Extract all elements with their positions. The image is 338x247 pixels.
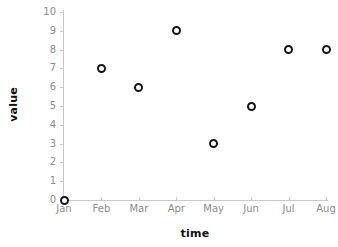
x-tick-mark: [326, 197, 327, 201]
x-tick-mark: [251, 197, 252, 201]
y-tick-label: 6: [36, 82, 56, 92]
x-tick-label: Jan: [44, 203, 84, 215]
data-point: [97, 64, 106, 73]
data-point: [60, 196, 69, 205]
x-tick-label: Aug: [306, 203, 338, 215]
y-tick-label: 1: [36, 176, 56, 186]
y-tick-label: 2: [36, 157, 56, 167]
y-tick-mark: [60, 50, 64, 51]
x-tick-label: Feb: [81, 203, 121, 215]
y-tick-mark: [60, 106, 64, 107]
y-tick-label: 8: [36, 45, 56, 55]
y-axis-title: value: [7, 83, 20, 127]
y-tick-mark: [60, 31, 64, 32]
scatter-chart: value time 012345678910 JanFebMarAprMayJ…: [0, 0, 338, 247]
x-tick-mark: [101, 197, 102, 201]
y-tick-mark: [60, 12, 64, 13]
x-tick-label: Apr: [156, 203, 196, 215]
x-tick-label: Jul: [269, 203, 309, 215]
x-tick-label: Jun: [231, 203, 271, 215]
y-tick-mark: [60, 181, 64, 182]
y-tick-mark: [60, 125, 64, 126]
data-point: [247, 102, 256, 111]
y-tick-label: 5: [36, 101, 56, 111]
x-tick-mark: [214, 197, 215, 201]
x-tick-label: May: [194, 203, 234, 215]
y-tick-mark: [60, 144, 64, 145]
y-tick-label: 7: [36, 63, 56, 73]
x-tick-label: Mar: [119, 203, 159, 215]
data-point: [322, 45, 331, 54]
data-point: [284, 45, 293, 54]
y-tick-mark: [60, 87, 64, 88]
data-point: [172, 26, 181, 35]
x-tick-mark: [289, 197, 290, 201]
y-tick-label: 4: [36, 120, 56, 130]
y-tick-mark: [60, 68, 64, 69]
y-tick-label: 10: [36, 7, 56, 17]
x-tick-mark: [176, 197, 177, 201]
y-tick-label: 9: [36, 26, 56, 36]
data-point: [134, 83, 143, 92]
y-tick-label: 3: [36, 139, 56, 149]
x-tick-mark: [139, 197, 140, 201]
x-axis-title: time: [64, 227, 326, 240]
data-point: [209, 139, 218, 148]
y-tick-mark: [60, 162, 64, 163]
